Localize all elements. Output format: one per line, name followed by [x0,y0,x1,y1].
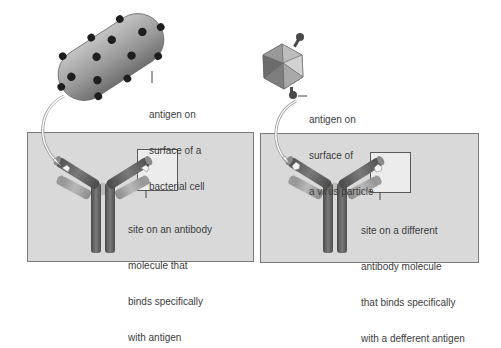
bacterial-antigen-label: antigen on surface of a bacterial cell [149,85,205,217]
right-binding-site-label: site on a different antibody molecule th… [361,201,465,348]
left-binding-site-label: site on an antibody molecule that binds … [128,200,212,348]
virus-particle-icon [263,33,304,99]
